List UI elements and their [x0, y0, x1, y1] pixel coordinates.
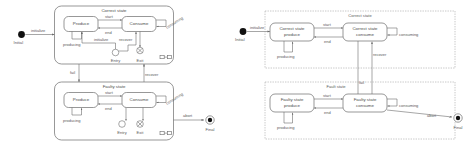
uml-state-machine-figure: Initial initialize Correct state Produce… [0, 0, 472, 149]
right-correct-end-label: end [324, 39, 331, 44]
left-correct-exit-label: Exit [137, 58, 145, 63]
left-initial-state[interactable] [18, 31, 25, 38]
left-faulty-exit-label: Exit [137, 130, 145, 135]
right-final-label: Final [454, 125, 463, 130]
left-faulty-start-label: start [105, 90, 114, 95]
left-correct-produce-label: Produce [73, 21, 90, 26]
left-correct-entry-point[interactable] [112, 49, 119, 56]
right-initial-label: Initial [235, 37, 245, 42]
left-correct-initialize-label: initialize [94, 37, 109, 42]
left-final-state[interactable] [206, 116, 214, 124]
right-abort-transition [387, 110, 452, 117]
right-correct-produce-label-line1: Correct state [279, 26, 305, 31]
left-faulty-produce-label: Produce [73, 97, 90, 102]
right-correct-consume-label-line1: Correct state [352, 26, 378, 31]
right-correct-consume-label-line2: consume [356, 32, 374, 37]
right-faulty-producing-selfloop [284, 112, 293, 123]
left-final-label: Final [206, 127, 215, 132]
right-final-state[interactable] [454, 114, 462, 122]
right-faulty-consuming-selfloop [387, 99, 397, 106]
right-fail-label: fail [359, 80, 364, 85]
left-correct-recover-label: recover [119, 37, 133, 42]
right-correct-consuming-selfloop [387, 28, 397, 35]
left-correct-state-title: Correct state [101, 8, 127, 13]
left-fail-label: fail [70, 70, 75, 75]
left-initialize-label: initialize [31, 28, 46, 33]
left-faulty-state-title: Faulty state [103, 84, 126, 89]
right-initialize-label: initialize [250, 25, 265, 30]
left-faulty-entry-point[interactable] [119, 121, 126, 128]
diagram-canvas: Initial initialize Correct state Produce… [0, 0, 472, 149]
right-correct-start-label: start [323, 22, 332, 27]
right-faulty-produce-label-line1: Faulty state [281, 97, 304, 102]
right-abort-label: abort [427, 113, 437, 118]
right-faulty-consuming-label: consuming [399, 103, 418, 108]
left-correct-start-label: start [105, 14, 114, 19]
right-correct-state-region-label: Correct state [348, 13, 372, 18]
left-faulty-end-label: end [105, 106, 112, 111]
right-faulty-end-label: end [324, 110, 331, 115]
right-faulty-produce-label-line2: produce [284, 103, 300, 108]
left-faulty-consume-label: Consume [130, 97, 149, 102]
left-abort-label: abort [183, 113, 193, 118]
left-correct-producing-label: producing [63, 42, 81, 47]
right-faulty-producing-label: producing [277, 125, 295, 130]
left-correct-consume-label: Consume [130, 21, 149, 26]
right-recover-label: recover [373, 52, 387, 57]
right-initial-state[interactable] [240, 28, 247, 35]
left-faulty-entry-label: Entry [117, 130, 128, 135]
right-fault-state-region-label: Fault state [326, 84, 346, 89]
right-faulty-consume-label-line2: consume [356, 103, 374, 108]
left-correct-exit-point[interactable] [137, 47, 144, 54]
left-recover-label: recover [145, 72, 159, 77]
right-correct-consuming-label: consuming [399, 32, 418, 37]
right-faulty-consume-label-line1: Faulty state [354, 97, 377, 102]
left-panel: Initial initialize Correct state Produce… [14, 6, 215, 140]
left-initial-label: Initial [14, 40, 24, 45]
left-correct-end-label: end [105, 30, 112, 35]
left-composite-faulty-state[interactable] [55, 82, 174, 140]
right-faulty-start-label: start [323, 93, 332, 98]
right-correct-producing-label: producing [277, 54, 295, 59]
left-faulty-exit-point[interactable] [137, 121, 144, 128]
right-correct-produce-label-line2: produce [284, 32, 300, 37]
right-correct-producing-selfloop [284, 41, 293, 52]
right-panel: Initial initialize Correct state Correct… [235, 11, 463, 139]
left-faulty-producing-label: producing [63, 118, 81, 123]
left-correct-entry-label: Entry [111, 58, 122, 63]
